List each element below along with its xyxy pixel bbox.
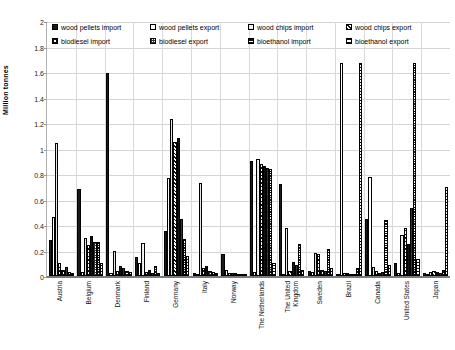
bar-group (392, 22, 421, 276)
x-axis-label-cell: The United Kingdom (277, 279, 306, 347)
swatch-horizontal-wide-icon (346, 38, 352, 44)
bar[interactable] (413, 63, 416, 276)
bar[interactable] (71, 273, 74, 276)
x-axis-tick-label: Norway (230, 281, 238, 303)
x-axis-tick-label: Sweden (316, 281, 324, 305)
bar-group (335, 22, 364, 276)
bar-group (421, 22, 450, 276)
swatch-horizontal-dense-icon (248, 38, 254, 44)
bar-groups (47, 22, 450, 276)
x-axis-tick-label: Finland (143, 281, 151, 302)
y-axis-tick-label: 1.8 (34, 44, 44, 51)
x-axis-label-cell: Belgium (75, 279, 104, 347)
bar[interactable] (186, 256, 189, 276)
x-axis-label-cell: Finland (133, 279, 162, 347)
swatch-dense-check-icon (248, 24, 254, 30)
bar-group (248, 22, 277, 276)
bar-group (133, 22, 162, 276)
bar[interactable] (279, 184, 282, 276)
legend-item[interactable]: wood chips import (248, 24, 346, 31)
bar[interactable] (250, 161, 253, 276)
bar-group (220, 22, 249, 276)
x-axis-label-cell: The Netherlands (248, 279, 277, 347)
x-axis-tick-label: Canada (374, 281, 382, 304)
x-axis-tick-label: The United Kingdom (284, 281, 299, 313)
x-axis-tick-label: Brazil (345, 281, 353, 297)
bar-group (191, 22, 220, 276)
x-axis-label-cell: Italy (190, 279, 219, 347)
swatch-fine-check-icon (150, 38, 156, 44)
x-axis-label-cell: Denmark (104, 279, 133, 347)
plot-area: 00.20.40.60.811.21.41.61.82 (46, 22, 450, 277)
x-axis-label-cell: United States (392, 279, 421, 347)
x-axis-label-cell: Canada (363, 279, 392, 347)
bar[interactable] (269, 169, 272, 276)
y-axis-tick-label: 0.6 (34, 197, 44, 204)
legend-label: biodiesel import (61, 38, 110, 45)
bar[interactable] (368, 177, 371, 276)
bar-chart: Million tonnes 00.20.40.60.811.21.41.61.… (0, 0, 455, 350)
bar[interactable] (359, 63, 362, 276)
y-axis-tick-label: 0.8 (34, 172, 44, 179)
y-axis-tick-label: 0.2 (34, 248, 44, 255)
x-axis-tick-label: Japan (432, 281, 440, 299)
bar[interactable] (445, 187, 448, 276)
y-axis-tick-mark (44, 277, 47, 278)
y-axis-title: Million tonnes (2, 45, 9, 135)
bar[interactable] (199, 183, 202, 276)
bar[interactable] (100, 263, 103, 276)
legend-item[interactable]: bioethanol export (346, 38, 444, 45)
legend-item[interactable]: wood pellets import (52, 24, 150, 31)
x-axis-tick-label: Germany (172, 281, 180, 308)
legend-label: wood pellets import (61, 24, 121, 31)
bar[interactable] (55, 143, 58, 276)
bar[interactable] (244, 274, 247, 276)
bar[interactable] (157, 273, 160, 276)
bar[interactable] (388, 265, 391, 276)
legend-item[interactable]: bioethanol import (248, 38, 346, 45)
bar[interactable] (141, 243, 144, 276)
legend-label: wood chips import (257, 24, 313, 31)
legend-label: bioethanol import (257, 38, 311, 45)
bar[interactable] (416, 259, 419, 276)
bar-group (105, 22, 134, 276)
x-axis-tick-label: United States (403, 281, 411, 320)
legend-item[interactable]: wood pellets export (150, 24, 248, 31)
legend-label: bioethanol export (355, 38, 409, 45)
y-axis-tick-label: 1.4 (34, 95, 44, 102)
x-axis-label-cell: Japan (421, 279, 450, 347)
swatch-coarse-check-icon (52, 38, 58, 44)
bar[interactable] (106, 73, 109, 276)
legend-item[interactable]: wood chips export (346, 24, 444, 31)
bar[interactable] (340, 63, 343, 276)
x-axis-tick-label: Austria (57, 281, 65, 301)
bar[interactable] (272, 263, 275, 276)
x-axis-tick-label: Denmark (114, 281, 122, 307)
swatch-solid-black-icon (52, 24, 58, 30)
bar[interactable] (129, 272, 132, 276)
x-axis-tick-label: Belgium (86, 281, 94, 304)
x-axis-label-cell: Sweden (306, 279, 335, 347)
bar[interactable] (215, 273, 218, 276)
x-axis-label-cell: Brazil (335, 279, 364, 347)
bar-group (306, 22, 335, 276)
y-axis-tick-label: 1.6 (34, 70, 44, 77)
bar-group (277, 22, 306, 276)
x-axis-label-cell: Norway (219, 279, 248, 347)
x-axis-label-cell: Germany (161, 279, 190, 347)
legend-item[interactable]: biodiesel import (52, 38, 150, 45)
x-axis-tick-label: Italy (201, 281, 209, 293)
legend-item[interactable]: biodiesel export (150, 38, 248, 45)
bar[interactable] (301, 270, 304, 276)
swatch-diagonal-hatch-icon (346, 24, 352, 30)
chart-legend: wood pellets importwood pellets exportwo… (52, 20, 444, 48)
legend-label: wood pellets export (159, 24, 219, 31)
x-axis-tick-label: The Netherlands (259, 281, 267, 329)
bar[interactable] (285, 228, 288, 276)
bar-group (364, 22, 393, 276)
x-axis-label-cell: Austria (46, 279, 75, 347)
x-axis-labels: AustriaBelgiumDenmarkFinlandGermanyItaly… (46, 279, 450, 347)
bar[interactable] (77, 189, 80, 276)
bar[interactable] (330, 268, 333, 276)
legend-label: biodiesel export (159, 38, 208, 45)
